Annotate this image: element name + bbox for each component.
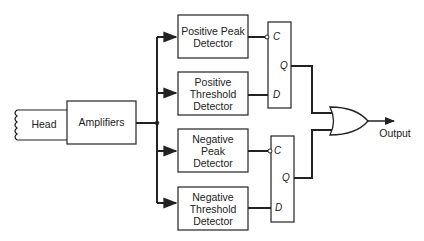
negative-peak-detector: Negative Peak Detector <box>178 129 248 172</box>
amplifier-label: Amplifiers <box>67 116 136 128</box>
ff1-q-pin: Q <box>280 60 288 71</box>
line: Threshold <box>190 203 237 215</box>
negative-threshold-detector: Negative Threshold Detector <box>178 187 248 230</box>
line: Negative <box>192 191 233 203</box>
line: Detector <box>193 37 233 49</box>
line: Positive <box>195 76 232 88</box>
line: Detector <box>193 100 233 112</box>
line: Detector <box>193 215 233 227</box>
line: Detector <box>193 157 233 169</box>
ff2-clock-pin: C <box>274 145 281 156</box>
ff1-d-pin: D <box>273 89 280 100</box>
line: Peak <box>201 145 225 157</box>
head-coil-icon <box>15 110 17 140</box>
or-gate <box>330 107 368 135</box>
positive-peak-detector: Positive Peak Detector <box>178 15 248 58</box>
positive-threshold-detector: Positive Threshold Detector <box>178 72 248 115</box>
ff2-q-pin: Q <box>282 172 290 183</box>
head-label: Head <box>24 118 64 130</box>
line: Threshold <box>190 88 237 100</box>
output-label: Output <box>370 127 420 139</box>
line: Positive Peak <box>181 25 245 37</box>
ff2-d-pin: D <box>275 202 282 213</box>
ff1-clock-pin: C <box>273 31 280 42</box>
line: Negative <box>192 133 233 145</box>
